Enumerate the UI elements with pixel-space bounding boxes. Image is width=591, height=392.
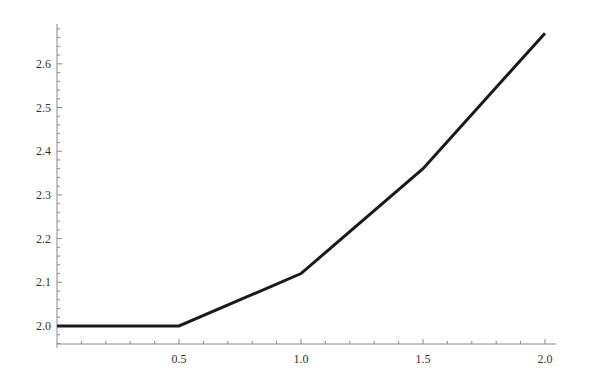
y-axis-ticks: 2.02.12.22.32.42.52.6 [36,29,62,344]
y-tick-label: 2.6 [36,57,51,71]
x-axis-ticks: 0.51.01.52.0 [81,339,552,366]
data-line [57,33,545,326]
x-tick-label: 0.5 [172,352,187,366]
y-tick-label: 2.4 [36,144,51,158]
y-tick-label: 2.3 [36,188,51,202]
x-tick-label: 2.0 [538,352,553,366]
y-tick-label: 2.1 [36,275,51,289]
x-tick-label: 1.0 [294,352,309,366]
x-tick-label: 1.5 [416,352,431,366]
line-chart: 0.51.01.52.0 2.02.12.22.32.42.52.6 [0,0,591,392]
y-tick-label: 2.0 [36,319,51,333]
y-tick-label: 2.2 [36,232,51,246]
axes [57,24,556,348]
y-tick-label: 2.5 [36,101,51,115]
